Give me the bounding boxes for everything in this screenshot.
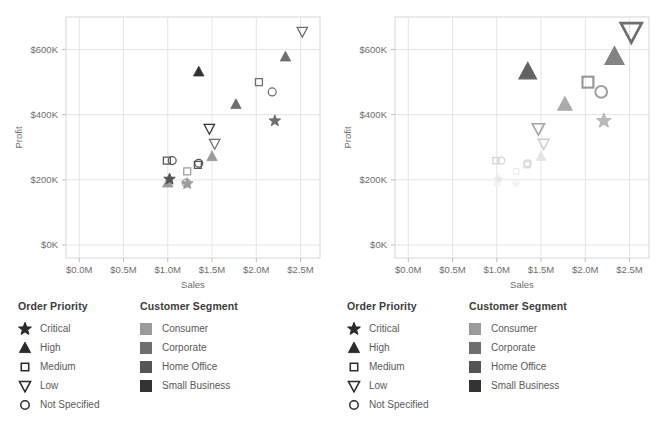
scatter-plot-left-svg: $0K$200K$400K$600K$0.0M$0.5M$1.0M$1.5M$2… xyxy=(0,0,328,295)
circle-marker-icon xyxy=(347,398,361,412)
color-swatch xyxy=(469,342,481,354)
color-swatch xyxy=(140,323,152,335)
legend-rows-customer-segment: ConsumerCorporateHome OfficeSmall Busine… xyxy=(469,319,649,395)
legend-label: Critical xyxy=(369,323,400,334)
legend-label: Corporate xyxy=(162,342,206,353)
data-point xyxy=(269,115,281,126)
legend-item-segment-small-business[interactable]: Small Business xyxy=(469,376,649,395)
triangle-down-marker-icon xyxy=(18,379,32,393)
legend-order-priority-right: Order Priority CriticalHighMediumLowNot … xyxy=(347,300,477,414)
data-point xyxy=(597,113,611,127)
square-marker-icon xyxy=(347,360,361,374)
legend-key xyxy=(469,342,491,354)
star-marker-icon xyxy=(18,322,32,336)
legend-key xyxy=(347,322,369,336)
legend-label: Low xyxy=(40,380,58,391)
data-point xyxy=(621,23,642,43)
svg-text:$1.0M: $1.0M xyxy=(155,264,181,275)
svg-text:Sales: Sales xyxy=(510,279,534,290)
legend-item-priority-low[interactable]: Low xyxy=(347,376,477,395)
data-point xyxy=(194,66,204,76)
legend-key xyxy=(18,398,40,412)
svg-text:$2.0M: $2.0M xyxy=(243,264,269,275)
legend-item-priority-critical[interactable]: Critical xyxy=(347,319,477,338)
legend-label: Corporate xyxy=(491,342,535,353)
legend-label: High xyxy=(40,342,61,353)
legend-label: Low xyxy=(369,380,387,391)
legend-title-order-priority: Order Priority xyxy=(347,300,477,312)
triangle-up-marker-icon xyxy=(347,341,361,355)
svg-text:$1.5M: $1.5M xyxy=(528,264,554,275)
svg-text:Profit: Profit xyxy=(342,126,353,149)
legend-label: Home Office xyxy=(491,361,546,372)
svg-text:$400K: $400K xyxy=(360,109,388,120)
scatter-plot-right: $0K$200K$400K$600K$0.0M$0.5M$1.0M$1.5M$2… xyxy=(329,0,657,295)
legend-key xyxy=(347,341,369,355)
data-point xyxy=(268,88,276,96)
svg-text:Profit: Profit xyxy=(13,126,24,149)
legend-rows-order-priority: CriticalHighMediumLowNot Specified xyxy=(347,319,477,414)
legend-rows-order-priority: CriticalHighMediumLowNot Specified xyxy=(18,319,148,414)
svg-text:$200K: $200K xyxy=(360,174,388,185)
legend-item-priority-low[interactable]: Low xyxy=(18,376,148,395)
legend-key xyxy=(140,380,162,392)
legend-item-priority-medium[interactable]: Medium xyxy=(18,357,148,376)
legend-label: Small Business xyxy=(491,380,559,391)
legend-item-segment-corporate[interactable]: Corporate xyxy=(140,338,320,357)
color-swatch xyxy=(140,380,152,392)
legend-item-segment-home-office[interactable]: Home Office xyxy=(469,357,649,376)
legend-item-priority-not-specified[interactable]: Not Specified xyxy=(347,395,477,414)
legend-item-priority-medium[interactable]: Medium xyxy=(347,357,477,376)
legend-order-priority-left: Order Priority CriticalHighMediumLowNot … xyxy=(18,300,148,414)
legend-key xyxy=(469,323,491,335)
legend-key xyxy=(347,379,369,393)
legend-item-segment-small-business[interactable]: Small Business xyxy=(140,376,320,395)
legend-item-segment-home-office[interactable]: Home Office xyxy=(140,357,320,376)
svg-text:$200K: $200K xyxy=(31,174,59,185)
svg-text:$2.5M: $2.5M xyxy=(287,264,313,275)
legend-item-segment-consumer[interactable]: Consumer xyxy=(140,319,320,338)
data-point xyxy=(519,63,536,79)
legend-key xyxy=(18,341,40,355)
data-point xyxy=(513,169,519,175)
legend-item-priority-critical[interactable]: Critical xyxy=(18,319,148,338)
legend-item-priority-high[interactable]: High xyxy=(18,338,148,357)
chart-panel-left: $0K$200K$400K$600K$0.0M$0.5M$1.0M$1.5M$2… xyxy=(0,0,328,430)
legend-key xyxy=(140,342,162,354)
data-point xyxy=(207,151,217,161)
data-point xyxy=(280,51,290,61)
svg-text:$1.5M: $1.5M xyxy=(199,264,225,275)
legend-label: Medium xyxy=(40,361,76,372)
legend-key xyxy=(347,360,369,374)
square-marker-icon xyxy=(18,360,32,374)
legend-item-priority-high[interactable]: High xyxy=(347,338,477,357)
data-point xyxy=(168,157,176,165)
svg-text:$2.0M: $2.0M xyxy=(572,264,598,275)
svg-text:$2.5M: $2.5M xyxy=(616,264,642,275)
legend-item-priority-not-specified[interactable]: Not Specified xyxy=(18,395,148,414)
legend-key xyxy=(18,379,40,393)
legend-key xyxy=(140,361,162,373)
legend-key xyxy=(140,323,162,335)
legend-item-segment-consumer[interactable]: Consumer xyxy=(469,319,649,338)
scatter-plot-right-svg: $0K$200K$400K$600K$0.0M$0.5M$1.0M$1.5M$2… xyxy=(329,0,657,295)
legend-item-segment-corporate[interactable]: Corporate xyxy=(469,338,649,357)
svg-text:$0.5M: $0.5M xyxy=(110,264,136,275)
star-marker-icon xyxy=(347,322,361,336)
color-swatch xyxy=(140,361,152,373)
legend-label: Not Specified xyxy=(369,399,428,410)
legend-key xyxy=(347,398,369,412)
svg-text:Sales: Sales xyxy=(181,279,205,290)
data-point xyxy=(204,124,214,134)
data-point xyxy=(538,139,549,149)
legend-key xyxy=(469,380,491,392)
data-point xyxy=(184,168,191,175)
svg-text:$600K: $600K xyxy=(31,44,59,55)
legend-title-customer-segment: Customer Segment xyxy=(140,300,320,312)
data-point xyxy=(595,86,607,98)
legend-label: Home Office xyxy=(162,361,217,372)
svg-text:$0.0M: $0.0M xyxy=(395,264,421,275)
chart-panel-right: $0K$200K$400K$600K$0.0M$0.5M$1.0M$1.5M$2… xyxy=(329,0,657,430)
data-point xyxy=(209,139,219,149)
svg-text:$0K: $0K xyxy=(370,239,388,250)
